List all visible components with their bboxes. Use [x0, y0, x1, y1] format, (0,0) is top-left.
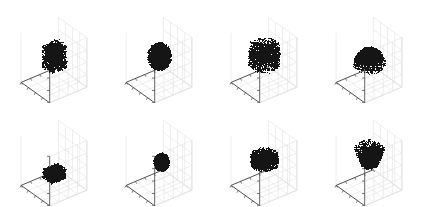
- subplot-canvas: [315, 0, 420, 103]
- shape-cylinder: [248, 38, 281, 75]
- subplot-6-sphere[interactable]: [105, 103, 210, 206]
- axes-3d: [20, 120, 87, 206]
- floor-grid: [126, 67, 192, 103]
- subplot-8-inverted-cone[interactable]: [315, 103, 420, 206]
- subplot-canvas: [315, 103, 420, 206]
- shape-sphere: [147, 42, 172, 72]
- shape-slab: [42, 163, 66, 185]
- subplot-canvas: [105, 0, 210, 103]
- shape-cone: [353, 46, 386, 74]
- shape-disc: [250, 147, 279, 172]
- floor-grid: [231, 170, 297, 206]
- floor-grid: [336, 67, 402, 103]
- figure-canvas: [0, 0, 423, 207]
- floor-grid: [126, 170, 192, 206]
- subplot-canvas: [0, 0, 105, 103]
- subplot-canvas: [0, 103, 105, 206]
- floor-grid: [336, 170, 402, 206]
- back-wall-left-grid: [155, 141, 192, 206]
- shape-sphere: [153, 152, 170, 172]
- subplot-canvas: [210, 0, 315, 103]
- subplot-canvas: [105, 103, 210, 206]
- subplot-2-sphere[interactable]: [105, 0, 210, 103]
- subplot-canvas: [210, 103, 315, 206]
- floor-grid: [21, 67, 87, 103]
- subplot-3-cylinder[interactable]: [210, 0, 315, 103]
- subplot-5-slab[interactable]: [0, 103, 105, 206]
- subplot-4-cone[interactable]: [315, 0, 420, 103]
- shape-box: [42, 39, 68, 74]
- subplot-1-box[interactable]: [0, 0, 105, 103]
- subplot-7-disc[interactable]: [210, 103, 315, 206]
